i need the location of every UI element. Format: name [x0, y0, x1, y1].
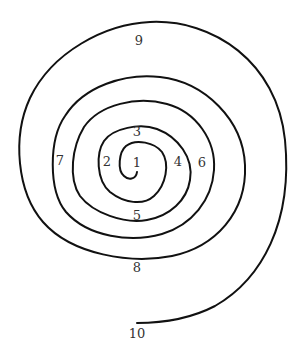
spiral-diagram: 1 2 3 4 5 6 7 8 9 10	[0, 0, 296, 356]
label-2: 2	[103, 154, 111, 169]
label-5: 5	[133, 208, 141, 223]
label-10: 10	[129, 326, 146, 341]
label-6: 6	[198, 155, 206, 170]
label-3: 3	[133, 124, 141, 139]
label-1: 1	[133, 155, 141, 170]
label-8: 8	[133, 260, 141, 275]
label-9: 9	[135, 33, 143, 48]
label-4: 4	[174, 154, 182, 169]
spiral-line	[19, 22, 286, 323]
label-7: 7	[56, 153, 64, 168]
position-labels: 1 2 3 4 5 6 7 8 9 10	[56, 33, 206, 341]
